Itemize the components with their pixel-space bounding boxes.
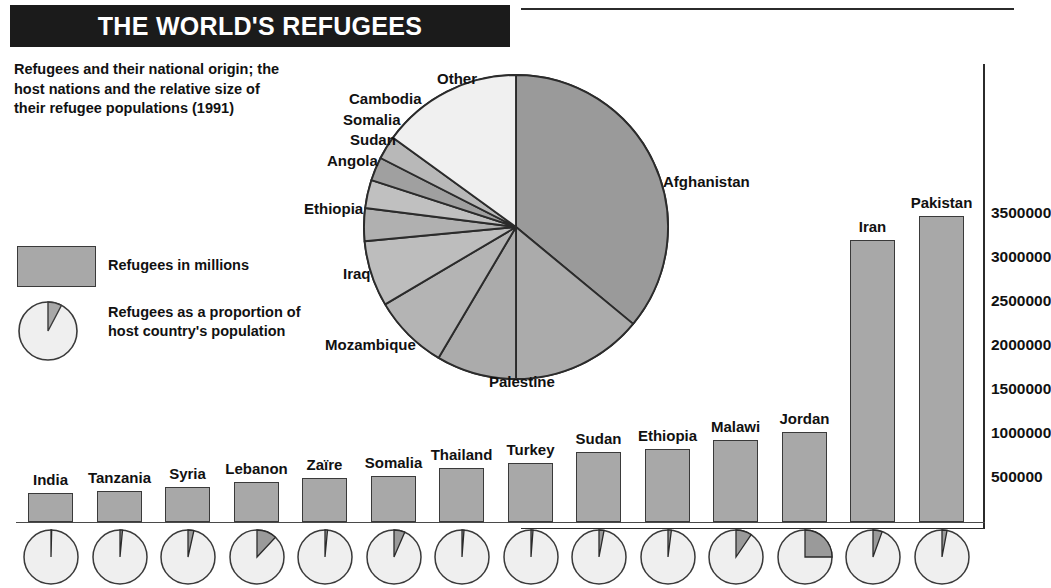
bar-jordan	[782, 432, 827, 522]
title-banner: THE WORLD'S REFUGEES	[10, 5, 510, 47]
bar-za-re	[302, 478, 347, 522]
y-tick-2000000: 2000000	[991, 336, 1051, 354]
proportion-pie-tanzania	[91, 528, 149, 586]
proportion-pie-za-re	[296, 528, 354, 586]
subtitle-description: Refugees and their national origin; the …	[14, 60, 284, 119]
pie-label-iraq: Iraq	[343, 265, 371, 282]
bar-india	[28, 493, 73, 522]
proportion-pie-pakistan	[913, 528, 971, 586]
proportion-pie-thailand	[433, 528, 491, 586]
proportion-pie-india	[22, 528, 80, 586]
proportion-pie-iran	[844, 528, 902, 586]
legend-bar-swatch	[17, 246, 96, 287]
pie-label-mozambique: Mozambique	[325, 336, 416, 353]
bar-label-pakistan: Pakistan	[882, 194, 1002, 211]
legend-proportion-label: Refugees as a proportion of host country…	[108, 303, 308, 341]
pie-label-afghanistan: Afghanistan	[663, 173, 750, 190]
proportion-pie-jordan	[776, 528, 834, 586]
y-tick-2500000: 2500000	[991, 292, 1051, 310]
bar-lebanon	[234, 482, 279, 522]
proportion-pie-somalia	[365, 528, 423, 586]
legend-bar-label: Refugees in millions	[108, 256, 328, 275]
y-tick-1000000: 1000000	[991, 424, 1051, 442]
y-axis-line	[983, 64, 985, 528]
y-tick-1500000: 1500000	[991, 380, 1051, 398]
bar-thailand	[439, 468, 484, 522]
bar-turkey	[508, 463, 553, 522]
pie-label-palestine: Palestine	[489, 373, 555, 390]
proportion-pie-sudan	[570, 528, 628, 586]
bar-label-jordan: Jordan	[745, 410, 865, 427]
bar-malawi	[713, 440, 758, 522]
pie-label-other: Other	[437, 70, 477, 87]
legend-proportion-pie-icon	[17, 300, 79, 362]
bar-tanzania	[97, 491, 142, 522]
bar-chart-baseline	[16, 522, 985, 523]
pie-label-sudan: Sudan	[350, 131, 396, 148]
bar-somalia	[371, 476, 416, 522]
pie-label-cambodia: Cambodia	[349, 90, 422, 107]
proportion-pie-turkey	[502, 528, 560, 586]
y-tick-3000000: 3000000	[991, 248, 1051, 266]
bar-pakistan	[919, 216, 964, 522]
y-tick-500000: 500000	[991, 468, 1043, 486]
bar-syria	[165, 487, 210, 522]
proportion-pie-syria	[159, 528, 217, 586]
proportion-pie-lebanon	[228, 528, 286, 586]
pie-label-somalia: Somalia	[343, 111, 401, 128]
proportion-pie-malawi	[707, 528, 765, 586]
bar-iran	[850, 240, 895, 522]
pie-label-ethiopia: Ethiopia	[304, 200, 363, 217]
bar-ethiopia	[645, 449, 690, 522]
bar-label-iran: Iran	[813, 218, 933, 235]
bar-sudan	[576, 452, 621, 522]
page-title: THE WORLD'S REFUGEES	[10, 5, 510, 47]
proportion-pie-ethiopia	[639, 528, 697, 586]
pie-label-angola: Angola	[327, 152, 378, 169]
